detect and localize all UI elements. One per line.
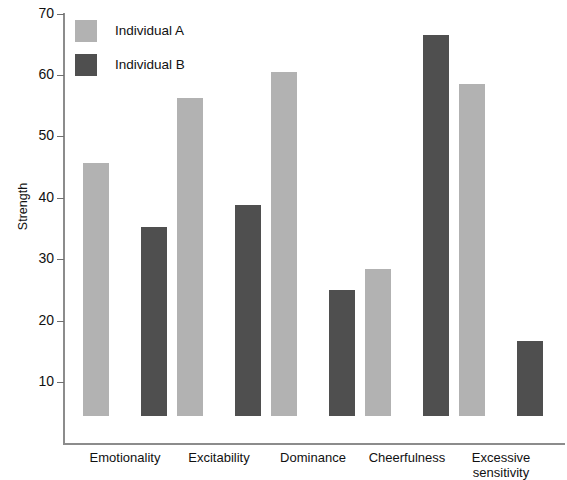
- bar-emotionality-individual-a: [83, 163, 109, 416]
- x-axis-label-line: sensitivity: [436, 465, 566, 480]
- bar-excessive-sensitivity-individual-a: [459, 84, 485, 416]
- bar-excessive-sensitivity-individual-b: [517, 341, 543, 416]
- plot-area: [0, 0, 567, 445]
- bar-cheerfulness-individual-a: [365, 269, 391, 416]
- x-axis-label-line: Excessive: [436, 450, 566, 465]
- bar-excitability-individual-b: [235, 205, 261, 416]
- bar-emotionality-individual-b: [141, 227, 167, 416]
- bar-dominance-individual-b: [329, 290, 355, 416]
- bar-excitability-individual-a: [177, 98, 203, 416]
- x-axis-label-excessive: Excessivesensitivity: [436, 450, 566, 480]
- bar-cheerfulness-individual-b: [423, 35, 449, 416]
- bar-dominance-individual-a: [271, 72, 297, 416]
